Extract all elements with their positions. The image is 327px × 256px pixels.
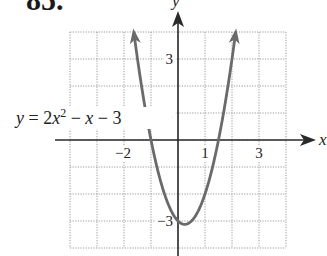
y-tick-label: 3 — [166, 51, 174, 67]
problem-number: 85. — [26, 0, 64, 16]
y-tick-label: −3 — [157, 213, 173, 229]
equation-label: y = 2x2 − x − 3 — [14, 106, 121, 128]
x-axis-label: x — [318, 130, 327, 149]
x-tick-label: 1 — [201, 145, 209, 161]
x-tick-label: 3 — [255, 145, 263, 161]
x-tick-label: −2 — [115, 145, 131, 161]
y-axis-label: y — [170, 0, 180, 10]
parabola-graph: 85. x y −21331−3 y = 2x2 − x − 3 — [0, 0, 327, 256]
